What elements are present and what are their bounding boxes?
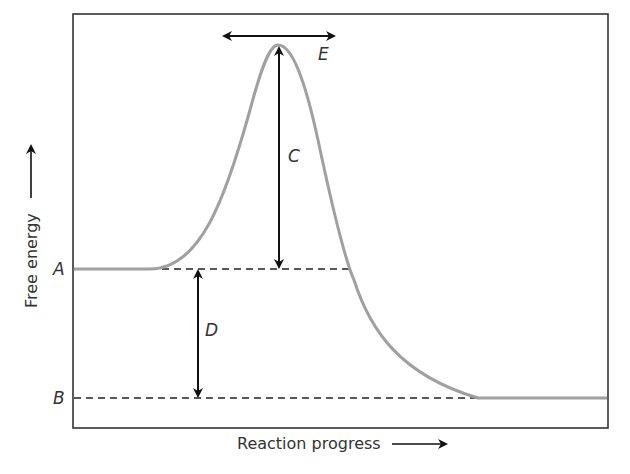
label-e: E: [318, 44, 329, 64]
label-b: B: [53, 388, 65, 408]
label-c: C: [288, 146, 300, 166]
energy-diagram: E C D A B Free energy Reaction progress: [0, 0, 630, 474]
label-d: D: [205, 320, 218, 340]
label-a: A: [52, 259, 65, 279]
y-axis-label: Free energy: [22, 213, 41, 308]
plot-frame: [73, 14, 608, 428]
energy-curve: [74, 45, 607, 398]
x-axis-label: Reaction progress: [237, 434, 381, 453]
